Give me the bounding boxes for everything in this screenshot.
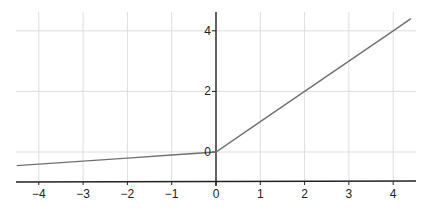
series-line-leaky-relu	[17, 19, 411, 166]
x-tick-label: −3	[76, 187, 90, 201]
data-series	[17, 19, 411, 166]
x-tick-label: 2	[301, 187, 308, 201]
x-tick-label: −1	[165, 187, 179, 201]
x-tick-label: 1	[257, 187, 264, 201]
x-tick-label: 4	[390, 187, 397, 201]
leaky-relu-chart: −4−3−2−101234 024	[0, 0, 428, 210]
y-tick-labels: 024	[204, 24, 211, 159]
x-tick-labels: −4−3−2−101234	[32, 187, 397, 201]
axes	[16, 12, 416, 186]
x-tick-label: −2	[121, 187, 135, 201]
x-tick-label: 3	[346, 187, 353, 201]
y-tick-label: 2	[204, 84, 211, 98]
x-tick-label: −4	[32, 187, 46, 201]
y-tick-label: 4	[204, 24, 211, 38]
y-tick-label: 0	[204, 145, 211, 159]
x-tick-label: 0	[213, 187, 220, 201]
